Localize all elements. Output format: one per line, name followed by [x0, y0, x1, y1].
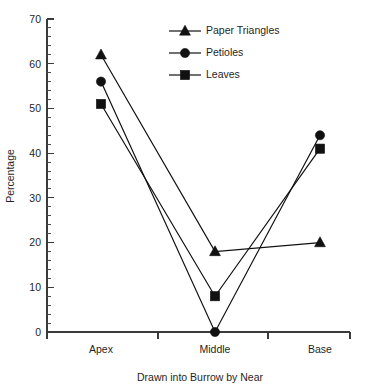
- data-point: [210, 327, 219, 336]
- series-leaves: [96, 99, 324, 300]
- data-point: [315, 237, 326, 247]
- y-tick-label: 0: [35, 326, 41, 338]
- data-point: [315, 144, 324, 153]
- x-tick-label-middle: Middle: [200, 343, 231, 355]
- chart-legend: Paper TrianglesPetiolesLeaves: [169, 24, 280, 80]
- y-tick-label: 50: [29, 102, 41, 114]
- y-axis: 010203040506070: [29, 13, 54, 338]
- x-axis-title: Drawn into Burrow by Near: [137, 371, 264, 383]
- legend-label-0: Paper Triangles: [206, 24, 280, 36]
- x-tick-label-apex: Apex: [89, 343, 114, 355]
- y-tick-label: 20: [29, 236, 41, 248]
- x-tick-label-base: Base: [308, 343, 332, 355]
- square-icon: [180, 70, 189, 79]
- x-axis: ApexMiddleBase: [47, 332, 350, 355]
- legend-label-1: Petioles: [206, 46, 243, 58]
- triangle-icon: [180, 25, 191, 35]
- data-point: [96, 49, 107, 59]
- data-point: [210, 292, 219, 301]
- data-point: [315, 131, 324, 140]
- y-tick-label: 40: [29, 147, 41, 159]
- circle-icon: [180, 48, 189, 57]
- legend-label-2: Leaves: [206, 68, 240, 80]
- y-axis-title: Percentage: [4, 149, 16, 203]
- y-tick-label: 10: [29, 281, 41, 293]
- series-line: [101, 104, 320, 296]
- y-tick-label: 30: [29, 192, 41, 204]
- data-point: [96, 77, 105, 86]
- line-chart: 010203040506070 ApexMiddleBase Paper Tri…: [0, 0, 366, 389]
- data-point: [96, 99, 105, 108]
- y-tick-label: 70: [29, 13, 41, 25]
- chart-canvas: 010203040506070 ApexMiddleBase Paper Tri…: [0, 0, 366, 389]
- data-series-group: [96, 49, 326, 337]
- y-tick-label: 60: [29, 58, 41, 70]
